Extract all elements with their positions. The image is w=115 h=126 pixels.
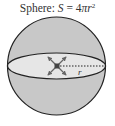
sphere-diagram: r	[0, 0, 115, 126]
radius-label: r	[78, 67, 82, 77]
center-point	[55, 64, 60, 69]
